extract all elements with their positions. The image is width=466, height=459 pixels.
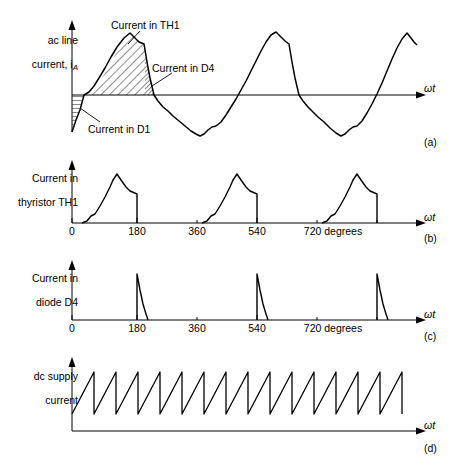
- panel-b-x-axis-arrow: [416, 220, 426, 227]
- panel-d-y-axis-arrow: [69, 357, 76, 367]
- panel-a-plot: [0, 0, 466, 152]
- waveform-diode-spike-3: [377, 274, 388, 320]
- waveform-dc-supply-sawtooth: [72, 372, 402, 414]
- waveform-thyristor-pulse-3: [322, 174, 377, 223]
- panel-thyristor-current: Current in thyristor TH1 ωt (b) 0 180 36…: [0, 152, 466, 252]
- panel-ac-line-current: ac line current, iA Current in TH1 Curre…: [0, 0, 466, 152]
- panel-diode-current: Current in diode D4 ωt (c) 0 180 360 540…: [0, 252, 466, 346]
- leader-line-d1: [80, 108, 100, 122]
- leader-line-d4: [152, 73, 172, 86]
- panel-a-x-axis-arrow: [416, 92, 426, 99]
- waveform-thyristor-pulse-2: [202, 174, 257, 223]
- panel-a-y-axis-arrow: [69, 20, 76, 30]
- panel-c-x-axis-arrow: [416, 317, 426, 324]
- panel-d-x-axis-arrow: [416, 428, 426, 435]
- waveform-thyristor-pulse-1: [82, 174, 137, 223]
- panel-b-plot: [0, 152, 466, 252]
- panel-b-y-axis-arrow: [69, 160, 76, 170]
- panel-c-plot: [0, 252, 466, 346]
- panel-c-y-axis-arrow: [69, 260, 76, 270]
- waveform-diode-spike-1: [137, 274, 148, 320]
- panel-dc-supply-current: dc supply current ωt (d): [0, 346, 466, 459]
- waveform-diode-spike-2: [257, 274, 268, 320]
- panel-d-plot: [0, 346, 466, 459]
